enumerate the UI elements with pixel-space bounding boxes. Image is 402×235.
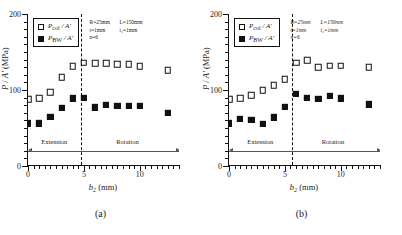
region-arrow-right — [377, 148, 380, 152]
data-point — [114, 103, 120, 109]
x-axis-minor-tick — [274, 165, 275, 169]
x-axis-minor-tick — [95, 165, 96, 169]
data-point — [164, 67, 171, 74]
annotation-L: L=150mm — [120, 19, 150, 27]
annotation-t2: t₂=1mm — [321, 27, 351, 35]
y-axis-title: P / A' (MPa) — [201, 47, 211, 90]
data-point — [92, 60, 99, 67]
data-point — [125, 103, 131, 109]
y-axis-tick-label: 200 — [9, 10, 21, 19]
data-point — [338, 62, 345, 69]
data-point — [81, 95, 87, 101]
legend-item: Pcol / A' — [239, 22, 274, 31]
annotation-t2: t₂=1mm — [120, 27, 150, 35]
region-span-bar — [229, 151, 380, 152]
data-point — [304, 57, 311, 64]
data-point — [81, 59, 88, 66]
x-axis-minor-tick — [134, 165, 135, 169]
x-axis-minor-tick — [62, 165, 63, 169]
x-axis-minor-tick — [179, 165, 180, 169]
data-point — [366, 101, 372, 107]
x-axis-minor-tick — [318, 165, 319, 169]
y-axis-tick-label: 200 — [210, 10, 222, 19]
annotation-L: L=150mm — [321, 19, 351, 27]
data-point — [28, 120, 31, 126]
data-point — [304, 95, 310, 101]
panel-caption-a: (a) — [95, 208, 106, 219]
x-axis-minor-tick — [313, 165, 314, 169]
legend: Pcol / A'PBW / A' — [33, 18, 79, 47]
data-point — [47, 114, 53, 120]
x-axis-minor-tick — [296, 165, 297, 169]
data-point — [103, 60, 110, 67]
data-point — [315, 96, 321, 102]
x-axis-minor-tick — [346, 165, 347, 169]
x-axis-minor-tick — [335, 165, 336, 169]
data-point — [293, 59, 300, 66]
x-axis-minor-tick — [240, 165, 241, 169]
region-label-extension: Extension — [41, 138, 67, 145]
parameter-annotation: R=25mmL=150mmt=1mmt₂=1mmn=6 — [90, 19, 150, 42]
region-arrow-left — [28, 148, 32, 152]
region-arrow-right — [176, 148, 179, 152]
data-point — [259, 87, 266, 94]
x-axis-minor-tick — [380, 165, 381, 169]
x-axis-minor-tick — [162, 165, 163, 169]
x-axis-minor-tick — [157, 165, 158, 169]
x-axis-minor-tick — [307, 165, 308, 169]
data-point — [114, 61, 121, 68]
x-axis-minor-tick — [358, 165, 359, 169]
x-axis-minor-tick — [106, 165, 107, 169]
filled-square-icon — [239, 36, 245, 42]
data-point — [125, 61, 132, 68]
data-point — [58, 105, 64, 111]
data-point — [248, 92, 255, 99]
data-point — [137, 63, 144, 70]
region-label-rotation: Rotation — [322, 138, 344, 145]
data-point — [293, 91, 299, 97]
legend: Pcol / A'PBW / A' — [234, 18, 280, 47]
y-axis-tick-label: 100 — [9, 86, 21, 95]
x-axis-tick-label: 5 — [82, 170, 86, 179]
data-point — [69, 63, 76, 70]
data-point — [282, 76, 289, 83]
filled-square-icon — [38, 36, 44, 42]
open-square-icon — [239, 24, 245, 30]
y-axis-title: P / A' (MPa) — [0, 47, 10, 90]
data-point — [229, 120, 232, 126]
data-point — [282, 104, 288, 110]
panel-caption-b: (b) — [296, 208, 308, 219]
x-axis-tick-label: 0 — [26, 170, 30, 179]
data-point — [36, 120, 42, 126]
region-arrow-left — [229, 148, 233, 152]
x-axis-tick-label: 5 — [283, 170, 287, 179]
annotation-n: n=6 — [90, 34, 150, 42]
x-axis-minor-tick — [151, 165, 152, 169]
data-point — [326, 62, 333, 69]
data-point — [271, 114, 277, 120]
x-axis-minor-tick — [50, 165, 51, 169]
data-point — [47, 89, 54, 96]
x-axis-minor-tick — [290, 165, 291, 169]
x-axis-minor-tick — [374, 165, 375, 169]
x-axis-minor-tick — [34, 165, 35, 169]
x-axis-minor-tick — [246, 165, 247, 169]
data-point — [237, 116, 243, 122]
x-axis-tick-label: 0 — [227, 170, 231, 179]
legend-item-label: PBW / A' — [249, 34, 274, 43]
x-axis-minor-tick — [279, 165, 280, 169]
x-axis-minor-tick — [78, 165, 79, 169]
annotation-t: t=1mm — [291, 27, 321, 35]
legend-item: PBW / A' — [38, 34, 73, 43]
data-point — [36, 95, 43, 102]
x-axis-minor-tick — [168, 165, 169, 169]
data-point — [229, 96, 232, 103]
x-axis-minor-tick — [39, 165, 40, 169]
legend-item-label: Pcol / A' — [249, 22, 272, 31]
data-point — [248, 117, 254, 123]
y-axis-tick-label: 0 — [218, 162, 222, 171]
open-square-icon — [38, 24, 44, 30]
annotation-R: R=25mm — [90, 19, 120, 27]
x-axis-minor-tick — [112, 165, 113, 169]
x-axis-minor-tick — [67, 165, 68, 169]
